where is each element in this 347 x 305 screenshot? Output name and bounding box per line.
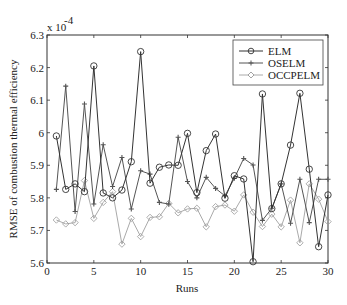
y-tick-label: 5.7: [30, 224, 44, 236]
y-axis-multiplier-exponent: -4: [64, 14, 74, 26]
plus-marker-icon: [176, 135, 181, 140]
plus-marker-icon: [316, 177, 321, 182]
plus-marker-icon: [63, 84, 68, 89]
y-tick-label: 5.6: [30, 257, 44, 269]
x-axis-label: Runs: [176, 282, 199, 294]
plus-marker-icon: [157, 200, 162, 205]
plus-marker-icon: [138, 168, 143, 173]
plus-marker-icon: [54, 187, 59, 192]
plus-marker-icon: [91, 202, 96, 207]
svg-text:ELM: ELM: [268, 45, 291, 57]
x-tick-label: 15: [182, 265, 194, 277]
plus-marker-icon: [82, 102, 87, 107]
plus-marker-icon: [148, 172, 153, 177]
y-tick-label: 5.8: [30, 192, 44, 204]
y-tick-label: 6.1: [30, 94, 44, 106]
y-tick-label: 6.3: [30, 29, 44, 41]
plus-marker-icon: [326, 177, 331, 182]
y-axis-label: RMSE of combustion thermal efficiency: [7, 59, 19, 238]
plus-marker-icon: [110, 184, 115, 189]
y-tick-label: 5.9: [30, 159, 44, 171]
x-tick-label: 5: [91, 265, 97, 277]
plus-marker-icon: [129, 206, 134, 211]
plus-marker-icon: [185, 179, 190, 184]
series-occpelm: [53, 177, 331, 247]
svg-text:OCCPELM: OCCPELM: [268, 69, 320, 81]
x-tick-label: 30: [323, 265, 335, 277]
legend: ELM OSELM OCCPELM: [233, 40, 323, 85]
plus-marker-icon: [297, 177, 302, 182]
svg-text:OSELM: OSELM: [268, 57, 306, 69]
y-tick-label: 6.2: [30, 62, 44, 74]
x-tick-label: 25: [276, 265, 288, 277]
plus-marker-icon: [119, 155, 124, 160]
x-tick-label: 0: [44, 265, 50, 277]
plus-marker-icon: [307, 220, 312, 225]
y-tick-label: 6: [39, 127, 45, 139]
plus-marker-icon: [101, 142, 106, 147]
x-tick-label: 10: [135, 265, 147, 277]
line-chart: 0510152025305.65.75.85.966.16.26.3 x 10 …: [0, 0, 347, 305]
x-tick-label: 20: [229, 265, 241, 277]
plus-marker-icon: [288, 221, 293, 226]
